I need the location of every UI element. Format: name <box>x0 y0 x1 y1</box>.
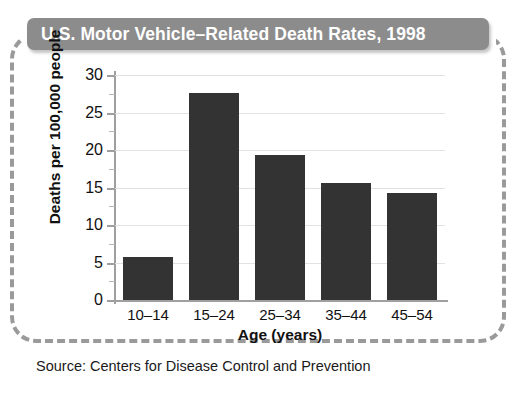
y-axis-tick <box>107 300 115 302</box>
y-axis-minor-tick <box>109 131 115 132</box>
bar-chart: Deaths per 100,000 people 051015202530 A… <box>0 0 517 348</box>
y-axis-minor-tick <box>109 206 115 207</box>
y-axis-tick <box>107 263 115 265</box>
y-axis-tick <box>107 225 115 227</box>
gridline <box>115 113 445 114</box>
y-axis-tick-label: 25 <box>85 104 103 122</box>
gridline <box>115 75 445 76</box>
x-axis-tick-label: 45–54 <box>391 306 433 323</box>
x-axis-tick-label: 10–14 <box>127 306 169 323</box>
bar <box>123 257 173 300</box>
y-axis-tick-label: 0 <box>94 291 103 309</box>
y-axis-tick <box>107 75 115 77</box>
y-axis-minor-tick <box>109 244 115 245</box>
bar <box>255 155 305 300</box>
chart-screenshot: U.S. Motor Vehicle–Related Death Rates, … <box>0 0 517 395</box>
x-axis-line <box>108 300 448 302</box>
x-axis-title: Age (years) <box>115 326 445 344</box>
bar <box>387 193 437 300</box>
gridline <box>115 150 445 151</box>
bar <box>321 183 371 300</box>
bar <box>189 93 239 300</box>
y-axis-tick <box>107 150 115 152</box>
y-axis-minor-tick <box>109 281 115 282</box>
y-axis-tick-label: 30 <box>85 66 103 84</box>
y-axis-tick-label: 15 <box>85 179 103 197</box>
y-axis-tick <box>107 188 115 190</box>
x-axis-tick-label: 15–24 <box>193 306 235 323</box>
source-note: Source: Centers for Disease Control and … <box>36 358 370 374</box>
y-axis-tick-label: 5 <box>94 254 103 272</box>
y-axis-tick-label: 10 <box>85 216 103 234</box>
y-axis-minor-tick <box>109 169 115 170</box>
plot-area: 051015202530 <box>115 75 445 300</box>
y-axis-minor-tick <box>109 94 115 95</box>
y-axis-tick <box>107 113 115 115</box>
y-axis-title: Deaths per 100,000 people <box>46 2 64 252</box>
x-axis-tick-label: 25–34 <box>259 306 301 323</box>
x-axis-tick-label: 35–44 <box>325 306 367 323</box>
y-axis-tick-label: 20 <box>85 141 103 159</box>
